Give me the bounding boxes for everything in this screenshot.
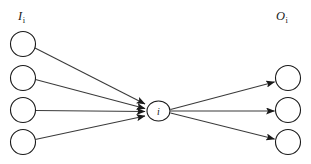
edge-edge-in-2 — [35, 80, 145, 109]
output-node-out-3 — [276, 130, 301, 155]
output-group-label: Oi — [276, 9, 289, 25]
input-node-in-3 — [11, 98, 36, 123]
edge-edge-in-4 — [35, 116, 145, 140]
output-nodes-group — [276, 66, 301, 155]
incoming-edges-group — [35, 48, 145, 140]
edge-edge-out-1 — [171, 82, 275, 110]
output-group-label-subscript: i — [286, 15, 289, 25]
output-node-out-1 — [276, 66, 301, 91]
input-node-in-1 — [11, 32, 36, 57]
input-node-in-2 — [11, 66, 36, 91]
edge-edge-in-3 — [36, 111, 146, 112]
edge-edge-in-1 — [35, 48, 145, 104]
input-group-label: Ii — [17, 9, 26, 25]
group-labels: IiOi — [17, 9, 289, 25]
input-node-in-4 — [11, 130, 36, 155]
hidden-node-label: i — [157, 106, 160, 117]
outgoing-edges-group — [171, 82, 275, 139]
input-nodes-group — [11, 32, 36, 155]
input-group-label-subscript: i — [23, 15, 26, 25]
node-link-diagram: i IiOi — [0, 0, 311, 164]
output-node-out-2 — [276, 98, 301, 123]
hidden-node-group: i — [147, 101, 170, 121]
output-group-label-base: O — [276, 9, 285, 23]
diagram-canvas: i IiOi — [0, 0, 311, 164]
edge-edge-out-3 — [171, 113, 275, 139]
